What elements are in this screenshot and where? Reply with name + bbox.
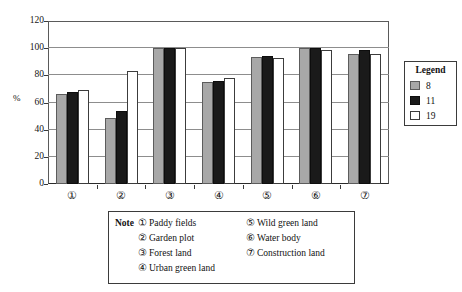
legend-title: Legend <box>405 65 456 76</box>
bar <box>224 78 235 184</box>
bar-group <box>153 21 186 184</box>
legend-entry-label: 19 <box>426 111 436 121</box>
note-item: ②Garden plot <box>138 231 246 246</box>
bar <box>56 94 67 184</box>
y-tick-mark <box>44 130 48 131</box>
y-tick-label: 60 <box>20 98 44 108</box>
bar <box>164 48 175 184</box>
x-tick-label: ① <box>58 189 86 202</box>
note-item-marker: ③ <box>138 248 147 258</box>
note-item-marker: ⑥ <box>246 233 255 243</box>
y-tick-mark <box>44 103 48 104</box>
y-tick-mark <box>44 157 48 158</box>
y-tick-label: 100 <box>20 43 44 53</box>
bar-group <box>251 21 284 184</box>
bar-group <box>299 21 332 184</box>
legend-swatch-icon <box>410 111 420 120</box>
bar <box>127 71 138 184</box>
y-tick-mark <box>44 21 48 22</box>
x-tick-label: ⑤ <box>253 189 281 202</box>
note-label: Note <box>115 216 138 276</box>
bar <box>251 57 262 184</box>
bar <box>273 58 284 184</box>
legend-swatch-icon <box>410 96 420 105</box>
y-tick-label: 80 <box>20 70 44 80</box>
legend-entry: 19 <box>405 108 456 123</box>
chart-page: % 120100806040200 ①②③④⑤⑥⑦ Legend 81119 N… <box>0 0 462 292</box>
note-column-left: ①Paddy fields②Garden plot③Forest land④Ur… <box>138 216 246 276</box>
bar-group <box>105 21 138 184</box>
bar <box>116 111 127 184</box>
plot-area <box>48 21 389 184</box>
bar <box>310 48 321 184</box>
bar <box>299 48 310 184</box>
bar <box>370 54 381 184</box>
note-column-right: ⑤Wild green land⑥Water body⑦Construction… <box>246 216 356 276</box>
legend: Legend 81119 <box>404 61 457 126</box>
note-item-marker: ① <box>138 218 147 228</box>
y-axis-tick-labels: 120100806040200 <box>18 21 44 184</box>
bar <box>153 48 164 184</box>
legend-swatch-icon <box>410 81 420 90</box>
note-item-label: Garden plot <box>149 233 194 243</box>
y-tick-mark <box>44 48 48 49</box>
legend-entry-label: 11 <box>426 96 435 106</box>
bar <box>175 48 186 184</box>
note-item: ⑤Wild green land <box>246 216 356 231</box>
bar-group <box>202 21 235 184</box>
bar <box>105 118 116 184</box>
note-item-label: Urban green land <box>149 263 215 273</box>
note-item: ⑥Water body <box>246 231 356 246</box>
bar <box>67 92 78 184</box>
bar-group <box>56 21 89 184</box>
note-box: Note ①Paddy fields②Garden plot③Forest la… <box>108 211 355 284</box>
bars-layer <box>48 21 389 184</box>
note-item-marker: ⑦ <box>246 248 255 258</box>
note-item-marker: ⑤ <box>246 218 255 228</box>
bar <box>359 50 370 184</box>
note-item: ④Urban green land <box>138 261 246 276</box>
bar <box>321 50 332 184</box>
bar <box>78 90 89 184</box>
note-item-label: Construction land <box>257 248 325 258</box>
bar <box>202 82 213 184</box>
x-tick-label: ② <box>107 189 135 202</box>
legend-entry: 11 <box>405 93 456 108</box>
note-item: ①Paddy fields <box>138 216 246 231</box>
legend-entries: 81119 <box>405 78 456 123</box>
y-tick-label: 0 <box>20 179 44 189</box>
y-tick-mark <box>44 75 48 76</box>
bar-group <box>348 21 381 184</box>
y-tick-label: 20 <box>20 152 44 162</box>
note-item: ③Forest land <box>138 246 246 261</box>
x-tick-label: ③ <box>156 189 184 202</box>
bar <box>262 56 273 184</box>
y-tick-label: 120 <box>20 16 44 26</box>
bar <box>213 81 224 184</box>
x-tick-label: ⑥ <box>302 189 330 202</box>
legend-entry: 8 <box>405 78 456 93</box>
note-item-label: Water body <box>257 233 301 243</box>
note-item-label: Wild green land <box>257 218 318 228</box>
note-item-label: Forest land <box>149 248 191 258</box>
y-tick-label: 40 <box>20 125 44 135</box>
note-item-marker: ② <box>138 233 147 243</box>
y-tick-mark <box>44 184 48 185</box>
x-tick-label: ④ <box>205 189 233 202</box>
note-item-marker: ④ <box>138 263 147 273</box>
note-item-label: Paddy fields <box>149 218 196 228</box>
legend-entry-label: 8 <box>426 81 431 91</box>
x-axis-tick-labels: ①②③④⑤⑥⑦ <box>48 189 389 205</box>
note-item: ⑦Construction land <box>246 246 356 261</box>
bar <box>348 54 359 184</box>
x-tick-label: ⑦ <box>351 189 379 202</box>
